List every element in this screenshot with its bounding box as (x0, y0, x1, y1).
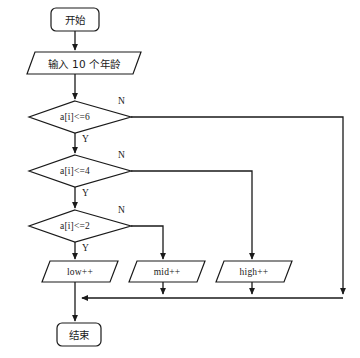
node-cond1-shape (29, 101, 131, 133)
node-input-shape (27, 52, 141, 74)
flowchart-svg (0, 0, 360, 358)
node-end-shape (57, 323, 101, 346)
node-mid-shape (129, 261, 205, 282)
edge-cond3-no-to-mid (131, 226, 163, 259)
edge-cond2-no-to-high (131, 171, 252, 259)
flowchart-canvas: 开始 输入 10 个年龄 a[i]<=6 a[i]<=4 a[i]<=2 low… (0, 0, 360, 358)
node-start-shape (51, 8, 99, 31)
node-high-shape (216, 261, 292, 282)
node-low-shape (42, 261, 118, 282)
node-cond2-shape (29, 155, 131, 187)
node-cond3-shape (29, 210, 131, 242)
